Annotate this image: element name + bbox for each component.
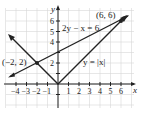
y-tick-label: 2 [50,59,54,68]
point-neg2-2 [35,61,39,65]
x-tick-label: −4 [11,87,20,96]
x-tick-label: 1 [67,87,71,96]
point-6-6 [119,19,123,23]
x-tick-label: −1 [43,87,52,96]
label-pt1: (−2, 2) [2,57,27,67]
chart: −4−3−2−1123456 2456 (−2, 2) (6, 6) 2y − … [0,0,141,124]
x-tick-label: −2 [32,87,41,96]
label-line2: y = |x| [83,57,105,67]
y-axis-arrow-icon [56,5,60,10]
label-pt2: (6, 6) [96,10,116,20]
x-tick-label: 2 [77,87,81,96]
y-tick-label: 5 [50,28,54,37]
y-tick-label: 6 [50,17,54,26]
x-tick-label: 6 [119,87,123,96]
x-tick-label: −3 [22,87,31,96]
x-tick-label: 4 [98,87,102,96]
label-y-axis: y [50,4,55,14]
label-line1: 2y − x = 6 [62,23,100,33]
y-tick-label: 4 [50,38,54,47]
x-tick-label: 5 [109,87,113,96]
chart-svg: −4−3−2−1123456 2456 (−2, 2) (6, 6) 2y − … [0,0,141,124]
x-tick-label: 3 [88,87,92,96]
label-x-axis: x [132,85,137,95]
